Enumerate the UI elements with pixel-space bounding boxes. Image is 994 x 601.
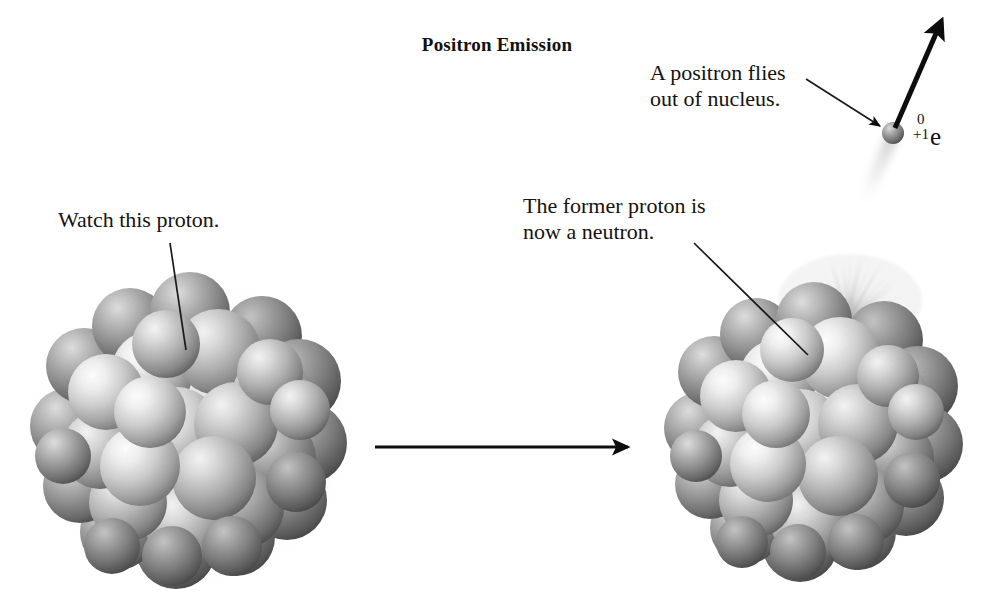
positron-particle: [857, 122, 904, 206]
annotation-positron-flies: A positron flies out of nucleus.: [650, 60, 786, 112]
figure-canvas: Positron Emission: [0, 0, 994, 601]
positron-charge: +1: [913, 126, 929, 143]
diagram-artwork: [0, 0, 994, 601]
positron-symbol-affixes: 0 +1: [913, 120, 930, 145]
daughter-nucleus: [658, 240, 978, 584]
annotation-watch-proton: Watch this proton.: [58, 207, 219, 233]
positron-bead: [882, 122, 904, 144]
positron-symbol: 0 +1 e: [913, 120, 941, 151]
annotation-former-proton: The former proton is now a neutron.: [523, 193, 706, 245]
leader-positron-flies: [806, 79, 880, 126]
parent-nucleus: [14, 264, 366, 600]
positron-element-symbol: e: [930, 123, 941, 150]
